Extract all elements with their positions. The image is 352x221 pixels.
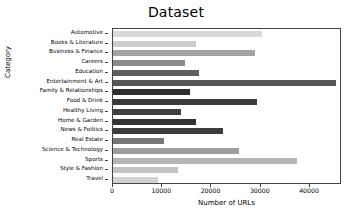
bar bbox=[113, 41, 196, 47]
bar-series bbox=[113, 29, 340, 183]
x-tick-label: 40000 bbox=[299, 188, 319, 194]
y-tick-mark bbox=[105, 33, 108, 34]
y-tick-mark bbox=[105, 169, 108, 170]
bar bbox=[113, 109, 181, 115]
y-tick-mark bbox=[105, 72, 108, 73]
bar bbox=[113, 70, 199, 76]
x-axis-title: Number of URLs bbox=[112, 199, 341, 207]
bar bbox=[113, 167, 178, 173]
y-tick-label: Science & Technology bbox=[42, 147, 108, 153]
bar-row bbox=[113, 158, 340, 164]
bar-row bbox=[113, 41, 340, 47]
plot-area bbox=[112, 28, 341, 184]
y-tick-label: Family & Relationships bbox=[40, 88, 108, 94]
bar bbox=[113, 128, 223, 134]
bar bbox=[113, 80, 336, 86]
y-tick-mark bbox=[105, 43, 108, 44]
x-tick-label: 20000 bbox=[201, 188, 221, 194]
y-tick-label: Business & Finance bbox=[49, 49, 108, 55]
bar-row bbox=[113, 167, 340, 173]
bar bbox=[113, 60, 185, 66]
bar-row bbox=[113, 99, 340, 105]
y-tick-mark bbox=[105, 82, 108, 83]
y-tick-label: Books & Literature bbox=[51, 40, 108, 46]
bar-row bbox=[113, 50, 340, 56]
bar bbox=[113, 31, 262, 37]
bar-row bbox=[113, 119, 340, 125]
bar-row bbox=[113, 138, 340, 144]
bar-row bbox=[113, 89, 340, 95]
y-tick-mark bbox=[105, 160, 108, 161]
bar bbox=[113, 148, 239, 154]
y-tick-mark bbox=[105, 140, 108, 141]
bar bbox=[113, 99, 257, 105]
y-tick-label: Home & Garden bbox=[58, 118, 108, 124]
y-tick-label: Entertainment & Art bbox=[46, 79, 108, 85]
y-tick-label: Food & Drink bbox=[67, 98, 108, 104]
y-tick-label: Style & Fashion bbox=[60, 166, 108, 172]
y-tick-mark bbox=[105, 62, 108, 63]
y-tick-mark bbox=[105, 111, 108, 112]
y-tick-mark bbox=[105, 91, 108, 92]
y-tick-label: Real Estate bbox=[71, 137, 108, 143]
bar bbox=[113, 50, 255, 56]
y-tick-mark bbox=[105, 150, 108, 151]
bar-row bbox=[113, 148, 340, 154]
x-tick-label: 0 bbox=[110, 188, 114, 194]
bar-row bbox=[113, 128, 340, 134]
bar bbox=[113, 177, 158, 183]
bar-row bbox=[113, 177, 340, 183]
bar-row bbox=[113, 60, 340, 66]
chart-figure: Dataset Category AutomotiveBooks & Liter… bbox=[0, 0, 352, 221]
y-tick-mark bbox=[105, 179, 108, 180]
bar-row bbox=[113, 70, 340, 76]
x-axis-ticks: 010000200003000040000 bbox=[0, 184, 352, 198]
y-tick-label: Careers bbox=[81, 59, 108, 65]
y-tick-mark bbox=[105, 121, 108, 122]
x-tick-label: 10000 bbox=[151, 188, 171, 194]
y-tick-mark bbox=[105, 101, 108, 102]
y-tick-label: News & Politics bbox=[61, 127, 108, 133]
y-tick-mark bbox=[105, 130, 108, 131]
y-tick-label: Education bbox=[75, 69, 108, 75]
x-tick-label: 30000 bbox=[250, 188, 270, 194]
bar bbox=[113, 119, 196, 125]
bar-row bbox=[113, 109, 340, 115]
bar bbox=[113, 158, 297, 164]
y-axis-tick-labels: AutomotiveBooks & LiteratureBusiness & F… bbox=[0, 28, 108, 184]
y-tick-mark bbox=[105, 52, 108, 53]
y-tick-label: Healthy Living bbox=[63, 108, 108, 114]
chart-title: Dataset bbox=[0, 4, 352, 20]
bar bbox=[113, 138, 164, 144]
bar-row bbox=[113, 31, 340, 37]
bar-row bbox=[113, 80, 340, 86]
bar bbox=[113, 89, 190, 95]
y-tick-label: Automotive bbox=[71, 30, 108, 36]
